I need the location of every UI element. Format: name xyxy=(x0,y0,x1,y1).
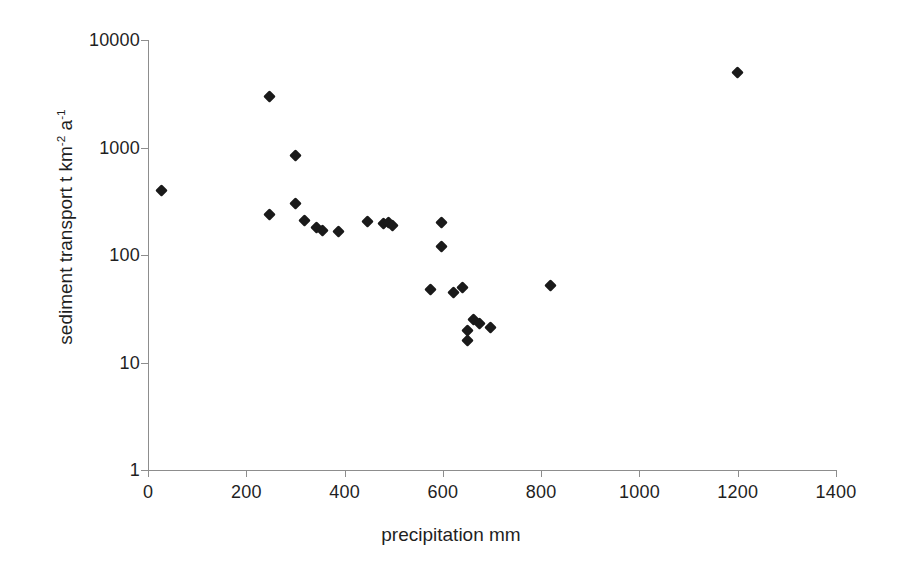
x-tick-label: 200 xyxy=(231,482,262,503)
data-point xyxy=(424,283,437,296)
y-tick-label: 1000 xyxy=(99,137,140,158)
x-tick-mark xyxy=(639,470,640,477)
x-tick-label: 600 xyxy=(428,482,459,503)
data-point xyxy=(484,321,497,334)
x-tick-label: 400 xyxy=(329,482,360,503)
data-point xyxy=(731,66,744,79)
x-tick-mark xyxy=(738,470,739,477)
x-tick-mark xyxy=(836,470,837,477)
y-tick-mark xyxy=(141,40,148,41)
x-tick-label: 800 xyxy=(526,482,557,503)
y-axis-title: sediment transport t km-2 a-1 xyxy=(55,0,77,457)
data-point xyxy=(435,216,448,229)
x-tick-mark xyxy=(443,470,444,477)
y-axis-title-sup-year: -1 xyxy=(54,109,67,119)
x-tick-label: 0 xyxy=(143,482,153,503)
data-point xyxy=(263,208,276,221)
y-tick-label: 10 xyxy=(120,352,140,373)
x-tick-mark xyxy=(345,470,346,477)
y-axis-title-main: sediment transport t km xyxy=(55,146,76,345)
x-axis-title: precipitation mm xyxy=(0,524,902,546)
x-axis-line xyxy=(148,470,837,471)
data-point xyxy=(361,215,374,228)
x-tick-label: 1000 xyxy=(619,482,660,503)
data-point xyxy=(289,149,302,162)
data-point xyxy=(155,184,168,197)
scatter-chart: 110100100010000 020040060080010001200140… xyxy=(0,0,902,573)
data-point xyxy=(289,197,302,210)
x-tick-mark xyxy=(148,470,149,477)
plot-area: 110100100010000 xyxy=(148,40,836,470)
x-tick-label: 1400 xyxy=(816,482,857,503)
y-tick-label: 100 xyxy=(109,245,140,266)
y-tick-mark xyxy=(141,255,148,256)
y-tick-mark xyxy=(141,148,148,149)
data-point xyxy=(545,279,558,292)
data-point xyxy=(435,240,448,253)
y-tick-label: 1 xyxy=(130,460,140,481)
y-axis-title-mid: a xyxy=(55,120,76,136)
x-tick-mark xyxy=(246,470,247,477)
data-point xyxy=(332,225,345,238)
data-point xyxy=(298,214,311,227)
y-tick-mark xyxy=(141,470,148,471)
x-tick-mark xyxy=(541,470,542,477)
data-point xyxy=(461,334,474,347)
y-tick-mark xyxy=(141,363,148,364)
data-point xyxy=(263,90,276,103)
x-tick-label: 1200 xyxy=(717,482,758,503)
y-axis-title-sup-area: -2 xyxy=(54,136,67,146)
y-tick-label: 10000 xyxy=(89,30,140,51)
